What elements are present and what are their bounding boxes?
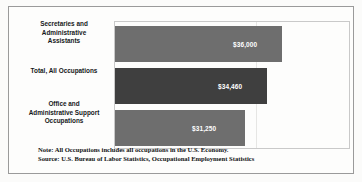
bar-row: $34,460 [115, 68, 349, 104]
category-label-office-and-administrative-support-occupations: Office and Administrative Support Occupa… [19, 100, 109, 126]
chart-figure: $36,000 $34,460 $31,250 Secretaries and … [0, 0, 362, 182]
category-label-line: Secretaries and [19, 20, 109, 29]
category-label-line: Total, All Occupations [19, 67, 109, 76]
category-label-line: Office and [19, 100, 109, 109]
category-label-line: Administrative Support [19, 109, 109, 118]
bar-total-all-occupations[interactable] [115, 68, 267, 104]
bar-value-label: $36,000 [233, 41, 257, 48]
bar-row: $31,250 [115, 110, 349, 146]
bars-layer: $36,000 $34,460 $31,250 [115, 22, 349, 148]
bar-office-and-administrative-support-occupations[interactable] [115, 110, 245, 146]
footnote-source: Source: U.S. Bureau of Labor Statistics,… [38, 154, 338, 163]
footnote-note: Note: All Occupations includes all occup… [38, 145, 338, 154]
bar-value-label: $31,250 [192, 125, 216, 132]
plot-area: $36,000 $34,460 $31,250 [114, 21, 350, 149]
footnotes: Note: All Occupations includes all occup… [38, 145, 338, 164]
category-label-secretaries-and-administrative-assistants: Secretaries and Administrative Assistant… [19, 20, 109, 46]
bar-row: $36,000 [115, 26, 349, 62]
category-label-line: Occupations [19, 117, 109, 126]
bar-value-label: $34,460 [218, 83, 242, 90]
category-label-line: Administrative [19, 29, 109, 38]
category-label-line: Assistants [19, 37, 109, 46]
category-label-total-all-occupations: Total, All Occupations [19, 67, 109, 76]
